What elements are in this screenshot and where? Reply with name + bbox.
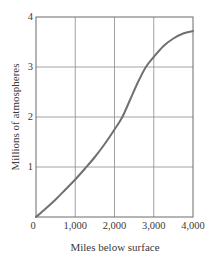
- x-tick-label: 1,000: [63, 220, 87, 231]
- grid-lines: [36, 17, 193, 217]
- x-tick-label: 2,000: [103, 220, 127, 231]
- x-tick-label: 0: [30, 220, 35, 231]
- x-axis-label: Miles below surface: [70, 241, 159, 253]
- y-axis-label: Millions of atmospheres: [9, 64, 21, 171]
- y-tick-label: 4: [28, 11, 34, 22]
- y-tick-label: 2: [28, 111, 33, 122]
- x-tick-label: 3,000: [142, 220, 166, 231]
- x-tick-label: 4,000: [181, 220, 205, 231]
- pressure-depth-chart: 01,0002,0003,0004,000 1234 Miles below s…: [0, 0, 212, 264]
- y-tick-label: 1: [28, 161, 33, 172]
- y-tick-labels: 1234: [28, 11, 34, 172]
- x-tick-labels: 01,0002,0003,0004,000: [30, 220, 204, 231]
- y-tick-label: 3: [28, 61, 33, 72]
